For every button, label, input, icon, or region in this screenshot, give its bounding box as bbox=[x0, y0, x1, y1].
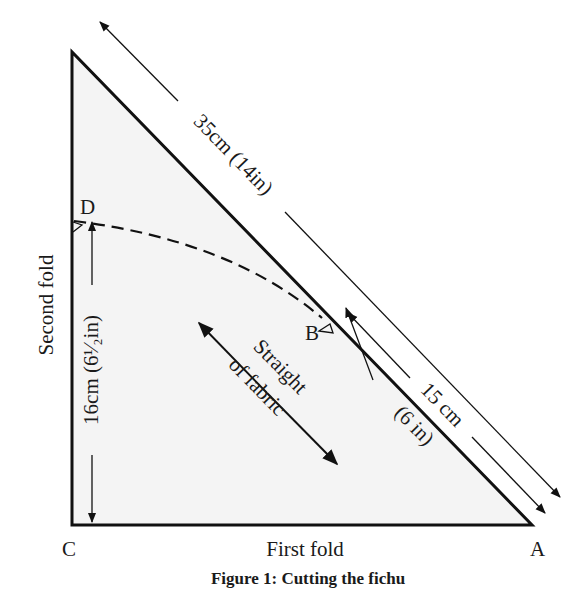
segment-cd-label: 16cm (6¹⁄₂in) bbox=[79, 315, 103, 425]
vertex-a-label: A bbox=[530, 537, 546, 561]
vertex-c-label: C bbox=[62, 537, 76, 561]
second-fold-label: Second fold bbox=[34, 254, 58, 355]
vertex-d-label: D bbox=[80, 195, 95, 219]
fichu-diagram: 35cm (14in) 15 cm (6 in) Straight of fab… bbox=[0, 0, 582, 600]
figure-caption: Figure 1: Cutting the fichu bbox=[211, 569, 405, 588]
hypotenuse-arrow-top bbox=[100, 22, 178, 101]
vertex-b-label: B bbox=[305, 321, 319, 345]
first-fold-label: First fold bbox=[266, 537, 344, 561]
fabric-triangle bbox=[72, 52, 532, 525]
